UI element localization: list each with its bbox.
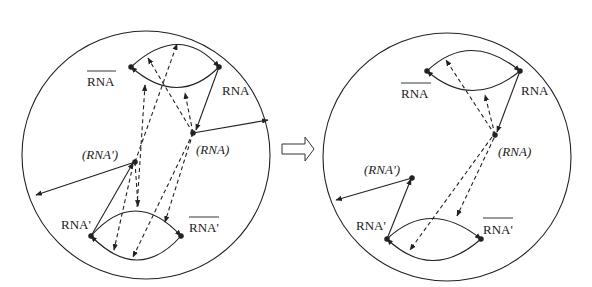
label-rna-paren-right: (RNA) <box>498 144 531 159</box>
left-panel <box>22 31 270 279</box>
label-rna-prime-paren: (RNA') <box>82 147 118 162</box>
left-circle <box>22 31 270 279</box>
label-rna-prime: RNA' <box>61 217 91 232</box>
label-rna-paren: (RNA) <box>196 142 229 157</box>
top-lens-lower <box>131 67 219 88</box>
label-rna: RNA <box>222 83 250 98</box>
label-rna-bar: RNA <box>87 74 115 89</box>
hollow-right-arrow-icon <box>282 137 314 161</box>
diagram-canvas: RNA RNA (RNA) (RNA') RNA' RNA' RNA RNA (… <box>0 0 592 287</box>
right-circle <box>323 33 571 281</box>
bottom-lens-lower <box>91 236 181 260</box>
label-rna-prime-bar-right: RNA' <box>483 222 513 237</box>
label-rna-prime-paren-right: (RNA') <box>364 162 400 177</box>
label-rna-prime-right: RNA' <box>356 218 386 233</box>
label-rna-bar-right: RNA <box>401 86 429 101</box>
label-rna-right: RNA <box>521 83 549 98</box>
right-panel <box>323 33 571 281</box>
top-lens-upper <box>131 45 219 68</box>
label-rna-prime-bar: RNA' <box>189 220 219 235</box>
